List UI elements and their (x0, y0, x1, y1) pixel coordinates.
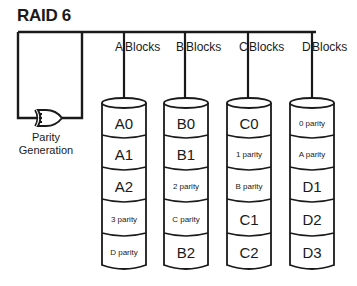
column-letter: A (115, 40, 124, 54)
block-b2-parity: 2 parity (164, 172, 208, 201)
block-d0-parity: 0 parity (290, 109, 334, 137)
parity-label-line2: Generation (18, 144, 74, 157)
block-b1: B1 (164, 140, 208, 169)
disk-a: A0 A1 A2 3 parity D parity (102, 97, 146, 277)
column-word: Blocks (125, 40, 160, 54)
disk-b: B0 B1 2 parity C parity B2 (164, 97, 208, 277)
block-a1: A1 (102, 140, 146, 169)
block-c3: C1 (227, 204, 271, 235)
column-label-c: CBlocks (239, 40, 284, 54)
block-d2: D1 (290, 172, 334, 201)
column-word: Blocks (249, 40, 284, 54)
disk-d: 0 parity A parity D1 D2 D3 (290, 97, 334, 277)
column-letter: D (302, 40, 311, 54)
block-c2-parity: B parity (227, 172, 271, 201)
parity-generation-label: Parity Generation (18, 131, 74, 157)
logic-gate-icon (34, 108, 66, 128)
block-c1-parity: 1 parity (227, 140, 271, 169)
block-a0: A0 (102, 109, 146, 137)
column-label-a: ABlocks (115, 40, 160, 54)
block-a4-parity: D parity (102, 238, 146, 267)
block-a3-parity: 3 parity (102, 204, 146, 235)
block-c0: C0 (227, 109, 271, 137)
column-label-d: DBlocks (302, 40, 347, 54)
block-b4: B2 (164, 238, 208, 267)
disk-c: C0 1 parity B parity C1 C2 (227, 97, 271, 277)
block-d4: D3 (290, 238, 334, 267)
column-letter: B (176, 40, 185, 54)
block-b3-parity: C parity (164, 204, 208, 235)
block-c4: C2 (227, 238, 271, 267)
block-b0: B0 (164, 109, 208, 137)
column-letter: C (239, 40, 248, 54)
column-label-b: BBlocks (176, 40, 221, 54)
column-word: Blocks (312, 40, 347, 54)
block-d1-parity: A parity (290, 140, 334, 169)
block-d3: D2 (290, 204, 334, 235)
parity-label-line1: Parity (18, 131, 74, 144)
column-word: Blocks (186, 40, 221, 54)
block-a2: A2 (102, 172, 146, 201)
